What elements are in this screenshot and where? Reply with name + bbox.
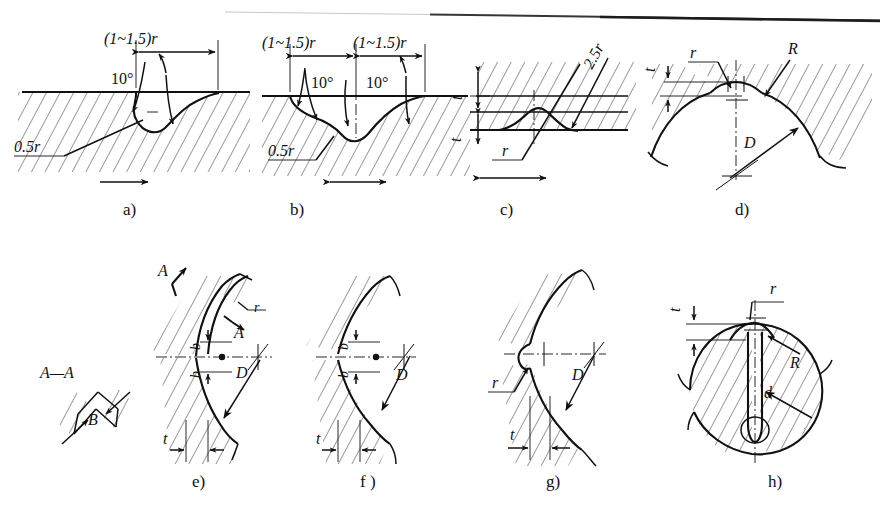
panel-e-r-leader [238, 302, 248, 310]
panel-g: r D t g) [488, 270, 606, 491]
panel-a-dim-1-15r: (1~1.5)r [104, 30, 158, 48]
panel-g-sym-r: r [492, 374, 499, 391]
panel-g-D-arrow [566, 356, 594, 410]
panel-a-angle-10deg: 10° [111, 70, 133, 87]
panel-e-sym-b-lower: b [188, 371, 203, 378]
panel-g-tip-lower [582, 450, 596, 466]
panel-f-sym-b-lower: b [336, 371, 351, 378]
panel-f: b b D t f ) [306, 276, 416, 491]
panel-c-sym-t-lower: t [447, 137, 464, 142]
panel-b-angle-10deg-left: 10° [311, 74, 333, 91]
panel-b-angle-10deg-right: 10° [366, 74, 388, 91]
panel-a-label: a) [123, 200, 136, 219]
panel-a-leader-up [159, 54, 166, 73]
drawing-canvas: (1~1.5)r 10° 0.5r a) [0, 0, 880, 529]
panel-e-A-arrow-top [172, 268, 186, 284]
panel-e-center-dot [219, 354, 225, 360]
section-title-AA: A—A [39, 364, 74, 381]
panel-d-sym-t: t [641, 67, 658, 72]
panel-h-hatch-left [689, 324, 752, 452]
panel-d-sym-D: D [743, 134, 756, 151]
panel-h-r-leader [750, 302, 752, 320]
panel-f-tip-upper [390, 276, 400, 296]
panel-e-sym-b-upper: b [188, 343, 203, 350]
panel-c-sym-r: r [502, 142, 509, 159]
panel-e-sym-r: r [254, 300, 260, 315]
panel-h-break-left2 [688, 412, 694, 430]
panel-b-label: b) [290, 200, 304, 219]
panel-c-hatch-upper [478, 62, 636, 112]
panel-c-sym-t-upper: t [448, 95, 465, 100]
panel-g-sym-t: t [510, 426, 515, 443]
panel-h-label: h) [768, 472, 782, 491]
panel-d-center-cross-3 [716, 160, 758, 190]
panel-g-hatch-lower [500, 364, 578, 466]
panel-d-end-right [820, 156, 846, 168]
panel-h-break-right [820, 360, 832, 374]
panel-h-sym-R: R [789, 354, 800, 371]
panel-f-tip-lower [390, 444, 396, 464]
panel-b-leader-a [298, 68, 305, 106]
engineering-figure-sheet: (1~1.5)r 10° 0.5r a) [0, 0, 880, 529]
panel-f-sym-t: t [316, 430, 321, 447]
panel-a: (1~1.5)r 10° 0.5r a) [14, 30, 250, 219]
section-dim-B: B [88, 411, 98, 428]
panel-d-label: d) [735, 200, 749, 219]
panel-c: t t 2.5r r c) [447, 40, 636, 219]
panel-e-sym-t: t [163, 430, 168, 447]
page-edge-scan-line [225, 12, 880, 21]
panel-e-label: e) [192, 472, 205, 491]
panel-b-dim-05r: 0.5r [268, 142, 295, 159]
panel-e-sym-A-top: A [157, 262, 168, 279]
panel-b: (1~1.5)r (1~1.5)r 10° 10° 0.5r b) [262, 34, 470, 219]
panel-d: t r R D d) [641, 40, 872, 219]
panel-g-tip-upper [582, 270, 594, 290]
panel-h-sym-t: t [666, 307, 683, 312]
panel-h-sym-d: d [764, 384, 773, 401]
panel-c-hatch-lower [470, 112, 636, 130]
panel-a-leader-down [166, 75, 173, 124]
panel-e: b b D t A A r e) [152, 262, 272, 491]
panel-b-leader-d [400, 56, 406, 73]
panel-h-break-left [678, 374, 690, 390]
panel-d-D-arrow [730, 128, 798, 178]
panel-b-leader-c [345, 80, 348, 126]
panel-d-sym-r: r [690, 44, 697, 61]
panel-f-label: f ) [360, 472, 376, 491]
panel-b-dim-1-15r-left: (1~1.5)r [262, 34, 316, 52]
panel-d-sym-R: R [787, 40, 798, 57]
panel-e-A-arrow-tail-top [172, 284, 176, 296]
panel-c-label: c) [500, 200, 513, 219]
panel-h-sym-r: r [770, 280, 777, 297]
panel-f-D-arrow [382, 356, 410, 410]
panel-f-center-dot [373, 354, 379, 360]
section-view-AA: A—A B [39, 364, 136, 444]
panel-e-A-arrow-tail-mid [224, 316, 232, 322]
panel-a-dim-05r: 0.5r [14, 138, 41, 155]
panel-h: r t R d h) [666, 280, 832, 491]
panel-e-sym-D: D [235, 364, 248, 381]
panel-g-hatch-upper [496, 274, 580, 348]
panel-g-label: g) [546, 472, 560, 491]
panel-b-dim-1-15r-right: (1~1.5)r [353, 34, 407, 52]
panel-f-sym-b-upper: b [336, 343, 351, 350]
